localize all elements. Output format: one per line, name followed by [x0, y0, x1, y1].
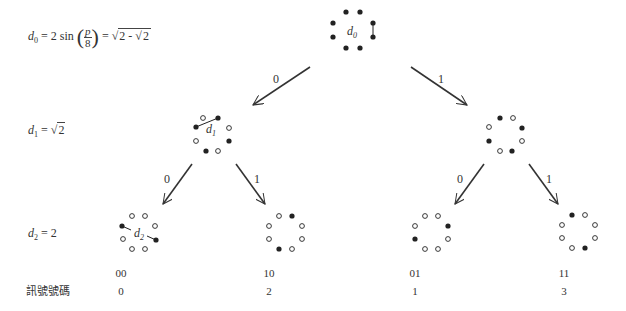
root-distance-label: d0	[347, 24, 357, 43]
signal-3: 3	[549, 285, 579, 297]
bits-10: 10	[254, 267, 284, 279]
edge-label-root-1: 1	[438, 72, 444, 86]
edge-l1right-1	[529, 164, 558, 204]
edge-label-l1right-1: 1	[546, 172, 552, 186]
signal-2: 2	[254, 285, 284, 297]
level1-right-constellation	[486, 115, 524, 153]
edge-label-l1right-0: 0	[457, 172, 463, 186]
signal-0: 0	[106, 285, 136, 297]
level2-distance-label: d2	[134, 226, 144, 245]
level1-distance-label: d1	[206, 122, 216, 141]
level2-01-constellation	[412, 214, 450, 252]
fraction: p8	[84, 26, 92, 49]
equation-d1: d1 = √2	[28, 123, 65, 139]
signal-1: 1	[400, 285, 430, 297]
bits-01: 01	[400, 267, 430, 279]
equation-d0: d0 = 2 sin (p8) = √2 - √2	[28, 24, 151, 50]
equation-d2: d2 = 2	[28, 226, 57, 242]
bits-11: 11	[549, 267, 579, 279]
edge-l1left-1	[236, 164, 265, 204]
signal-number-label: 訊號號碼	[26, 285, 70, 299]
bits-00: 00	[106, 267, 136, 279]
edge-label-l1left-1: 1	[254, 172, 260, 186]
level2-10-constellation	[267, 213, 305, 251]
edge-label-l1left-0: 0	[164, 172, 170, 186]
level2-11-constellation	[560, 212, 598, 250]
edge-root-left	[253, 67, 310, 105]
edge-label-root-0: 0	[273, 72, 279, 86]
